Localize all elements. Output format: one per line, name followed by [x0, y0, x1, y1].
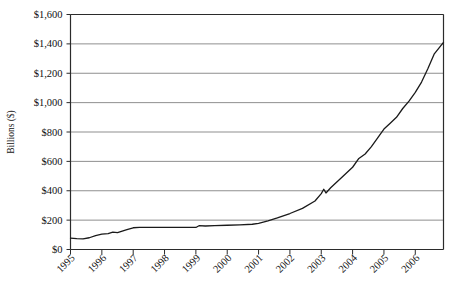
chart-background [0, 0, 454, 285]
y-axis-tick-label: $1,200 [34, 68, 63, 79]
y-axis-tick-label: $600 [42, 156, 63, 167]
line-chart: $1,600$1,400$1,200$1,000$800$600$400$200… [0, 0, 454, 285]
y-axis-tick-label: $0 [52, 244, 63, 255]
y-axis-title: Billions ($) [6, 110, 17, 154]
y-axis-tick-label: $400 [42, 185, 63, 196]
y-axis-tick-label: $200 [42, 215, 63, 226]
y-axis-tick-label: $800 [42, 127, 63, 138]
y-axis-tick-label: $1,600 [34, 9, 63, 20]
y-axis-tick-label: $1,400 [34, 38, 63, 49]
chart-container: $1,600$1,400$1,200$1,000$800$600$400$200… [0, 0, 454, 285]
y-axis-tick-label: $1,000 [34, 97, 63, 108]
